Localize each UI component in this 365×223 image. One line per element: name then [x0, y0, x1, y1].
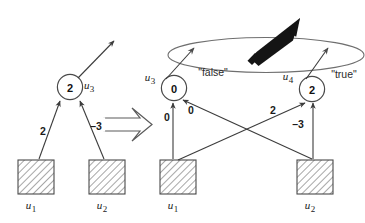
- right-edge-weight-u2-u4: –3: [292, 119, 304, 130]
- right-edge-weight-u1-u3: 0: [164, 112, 170, 123]
- left-node-u3-value: 2: [67, 83, 73, 94]
- right-input-square-u2: [297, 160, 333, 194]
- right-edge-weight-u1-u4: 2: [270, 105, 276, 116]
- left-input-label-u2: u2: [97, 200, 107, 214]
- left-output-arrow: [78, 41, 114, 78]
- right-node-u3-label: u3: [145, 72, 155, 86]
- right-edge-u1-u4: [178, 103, 305, 160]
- false-branch-arrow: [166, 48, 194, 79]
- right-input-square-u1: [160, 160, 196, 194]
- right-node-u4-value: 2: [309, 85, 315, 96]
- transform-arrow-icon: [104, 108, 152, 141]
- left-input-square-u2: [89, 160, 125, 194]
- right-input-label-u1: u1: [168, 200, 178, 214]
- right-input-label-u2: u2: [305, 200, 315, 214]
- right-node-u4-label: u4: [283, 71, 293, 85]
- true-branch-label: "true": [331, 69, 357, 80]
- left-input-square-u1: [18, 160, 54, 194]
- false-branch-label: "false": [198, 67, 228, 78]
- left-edge-weight-u1-u3: 2: [40, 126, 46, 137]
- left-edge-weight-u2-u3: –3: [90, 121, 102, 132]
- right-node-u3-value: 0: [171, 84, 177, 95]
- true-branch-arrow: [306, 48, 328, 79]
- left-input-label-u1: u1: [26, 200, 36, 214]
- figure-canvas: 2 u3 2 –3 u1 u2 0 2 u3 u4 "false" "true"…: [0, 0, 365, 223]
- thick-black-arrow-icon: [248, 18, 301, 66]
- left-node-u3-label: u3: [84, 80, 94, 94]
- diagram-vector-layer: [0, 0, 365, 223]
- right-edge-weight-u2-u3: 0: [188, 105, 194, 116]
